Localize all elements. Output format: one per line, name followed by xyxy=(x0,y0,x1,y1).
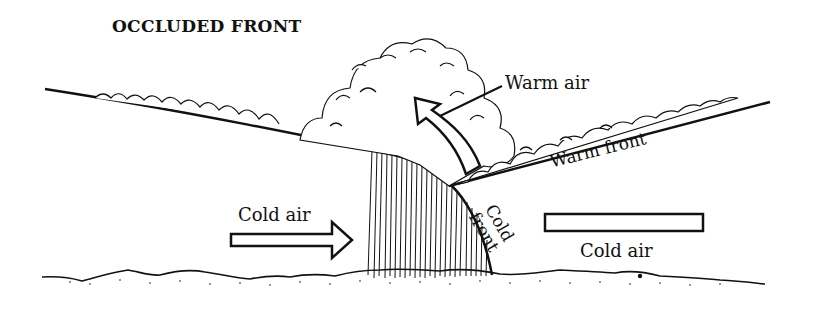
cold-air-arrow-right xyxy=(231,222,352,258)
ground-terrain xyxy=(42,269,765,284)
label-cold-air-right: Cold air xyxy=(580,240,653,261)
cold-air-block xyxy=(545,214,703,231)
label-warm-air: Warm air xyxy=(505,72,589,93)
diagram-artwork xyxy=(0,0,814,312)
occluded-front-diagram: OCCLUDED FRONT Warm air Warm front Cold … xyxy=(0,0,814,312)
label-cold-air-left: Cold air xyxy=(238,204,311,225)
diagram-title: OCCLUDED FRONT xyxy=(112,16,301,36)
